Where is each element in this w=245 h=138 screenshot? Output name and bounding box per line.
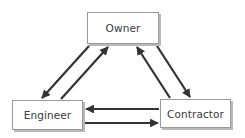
arrow-owner-to-contractor xyxy=(157,46,190,97)
contractor-node: Contractor xyxy=(160,99,231,128)
arrow-engineer-to-owner xyxy=(61,47,108,99)
relationship-diagram: Owner Engineer Contractor xyxy=(0,0,245,138)
owner-label: Owner xyxy=(106,22,141,34)
contractor-label: Contractor xyxy=(167,108,224,120)
engineer-node: Engineer xyxy=(12,100,83,130)
arrow-owner-to-engineer xyxy=(42,46,89,98)
owner-node: Owner xyxy=(87,12,159,44)
engineer-label: Engineer xyxy=(24,109,72,121)
arrow-contractor-to-owner xyxy=(137,47,170,98)
